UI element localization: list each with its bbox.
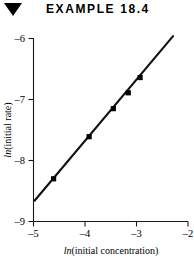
example-header: EXAMPLE 18.4: [0, 0, 194, 22]
y-tick-label-1: –7: [14, 94, 26, 105]
y-axis-title: ln(initial rate): [2, 102, 14, 157]
data-point: [126, 90, 131, 95]
chart-axes: [29, 38, 189, 227]
data-point: [51, 176, 56, 181]
data-point: [111, 106, 116, 111]
chart-container: –6 –7 –8 –9 –5 –4 –3 –2 ln(initial conce…: [0, 22, 194, 258]
y-tick-label-3: –9: [14, 216, 26, 227]
y-tick-labels: –6 –7 –8 –9: [14, 33, 26, 227]
x-tick-label-3: –2: [182, 228, 194, 239]
triangle-down-icon: [4, 3, 22, 16]
x-tick-label-0: –5: [27, 228, 39, 239]
x-tick-label-2: –3: [130, 228, 142, 239]
x-axis-title: ln(initial concentration): [64, 245, 159, 257]
y-tick-label-2: –8: [14, 155, 26, 166]
x-tick-label-1: –4: [79, 228, 91, 239]
data-point: [87, 134, 92, 139]
x-tick-labels: –5 –4 –3 –2: [27, 228, 193, 239]
y-tick-label-0: –6: [14, 33, 26, 44]
data-point: [138, 75, 143, 80]
best-fit-line: [35, 36, 174, 201]
page-title: EXAMPLE 18.4: [46, 2, 194, 16]
scatter-plot-svg: –6 –7 –8 –9 –5 –4 –3 –2 ln(initial conce…: [0, 22, 194, 258]
